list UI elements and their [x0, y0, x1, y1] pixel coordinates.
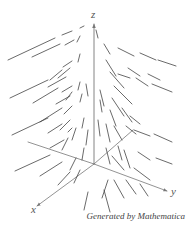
vector-segment	[86, 130, 88, 145]
vector-segment	[80, 94, 82, 102]
vector-segment	[100, 100, 102, 112]
vector-segment	[62, 86, 72, 92]
vector-segment	[118, 146, 122, 160]
vector-segment	[64, 106, 72, 114]
vector-segment	[68, 128, 72, 132]
vector-segment	[124, 150, 130, 168]
vector-segment	[40, 108, 62, 122]
vector-segment	[84, 192, 88, 210]
vector-segment	[112, 156, 124, 170]
vector-segment	[118, 74, 130, 78]
vector-segment	[136, 78, 148, 86]
vector-segment	[154, 134, 172, 142]
vector-segment	[114, 180, 124, 198]
vector-segment	[96, 30, 98, 38]
vector-segment	[48, 77, 66, 87]
vector-segment	[110, 72, 124, 88]
vector-segment	[148, 74, 160, 80]
vector-segment	[32, 44, 60, 57]
vector-segment	[140, 53, 156, 60]
vector-segment	[8, 38, 55, 60]
vector-segment	[112, 98, 124, 116]
vector-segment	[40, 162, 62, 176]
axes	[28, 24, 167, 206]
vector-segment	[70, 158, 76, 170]
vector-segment	[62, 31, 72, 35]
vector-segment	[138, 152, 150, 160]
vector-segment	[10, 80, 48, 98]
vector-segment	[33, 88, 58, 103]
vector-field-plot	[0, 0, 191, 228]
vector-segment	[152, 84, 172, 92]
vector-segment	[134, 168, 150, 180]
vector-segment	[102, 180, 108, 198]
vector-segment	[50, 70, 62, 80]
vector-segment	[60, 120, 70, 130]
vector-field	[8, 26, 176, 212]
vector-segment	[50, 140, 64, 148]
vector-segment	[118, 48, 134, 56]
vector-segment	[126, 180, 136, 194]
vector-segment	[128, 68, 140, 76]
vector-segment	[72, 128, 76, 140]
vector-segment	[86, 84, 88, 96]
vector-segment	[74, 170, 80, 183]
vector-segment	[63, 61, 72, 67]
vector-segment	[98, 120, 100, 136]
mathematica-caption: Generated by Mathematica	[87, 211, 185, 221]
vector-segment	[114, 126, 122, 140]
vector-segment	[114, 86, 132, 104]
x-axis-label: x	[31, 204, 36, 215]
vector-segment	[66, 92, 72, 100]
vector-segment	[158, 60, 176, 66]
x-axis-line	[37, 164, 94, 206]
vector-segment	[77, 36, 80, 42]
vector-segment	[15, 155, 50, 171]
vector-segment	[82, 148, 84, 160]
vector-segment	[65, 40, 74, 45]
vector-segment	[104, 190, 110, 212]
vector-segment	[104, 44, 110, 54]
vector-segment	[58, 68, 70, 78]
vector-segment	[156, 158, 172, 164]
vector-segment	[130, 116, 140, 124]
vector-segment	[80, 26, 84, 28]
vector-segment	[78, 54, 80, 62]
z-axis-label: z	[91, 9, 95, 20]
vector-segment	[140, 184, 148, 196]
vector-segment	[48, 124, 62, 133]
vector-segment	[78, 82, 80, 90]
vector-segment	[134, 130, 150, 136]
vector-segment	[106, 124, 110, 142]
vector-segment	[110, 110, 116, 126]
vector-segment	[82, 118, 84, 128]
y-axis-label: y	[171, 186, 176, 197]
vector-segment	[62, 138, 68, 150]
